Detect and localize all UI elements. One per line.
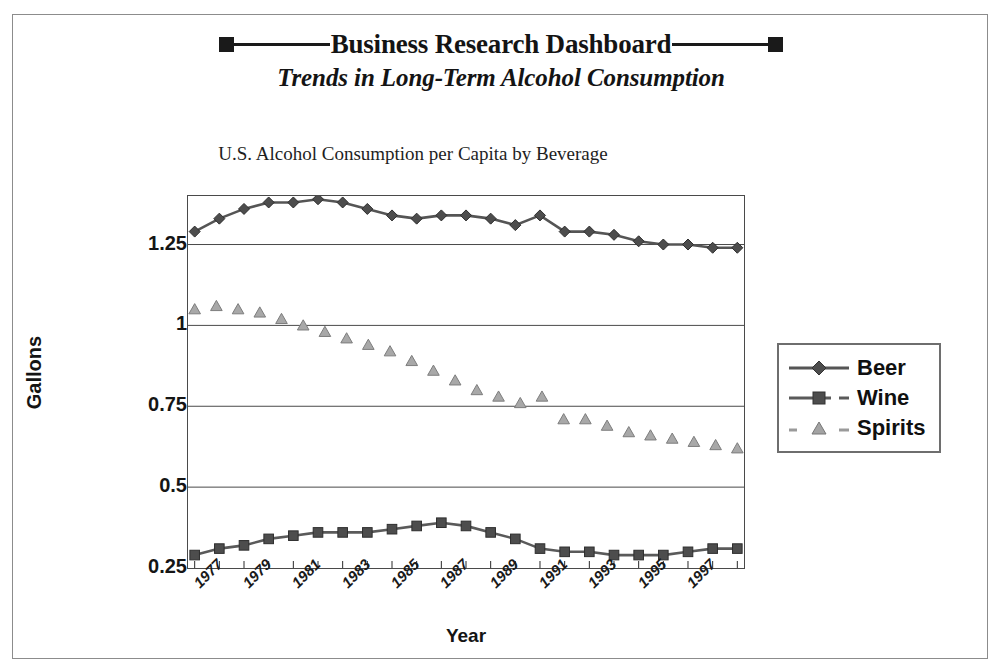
y-tick-label: 0.25 xyxy=(121,556,187,576)
data-point-triangle xyxy=(732,443,744,453)
data-point-triangle xyxy=(428,365,440,375)
data-point-diamond xyxy=(214,213,225,224)
data-point-square xyxy=(560,547,570,557)
dashboard-title: Business Research Dashboard xyxy=(330,31,673,58)
data-point-square xyxy=(733,544,743,554)
data-point-diamond xyxy=(732,242,743,253)
data-point-diamond xyxy=(263,197,274,208)
data-point-square xyxy=(264,534,274,544)
y-axis-labels: 0.250.50.7511.25 xyxy=(109,195,187,569)
data-point-square xyxy=(412,521,422,531)
data-point-triangle xyxy=(580,414,592,424)
data-point-diamond xyxy=(313,196,324,205)
data-point-triangle xyxy=(211,300,223,310)
data-point-square xyxy=(486,528,496,538)
data-point-diamond xyxy=(288,197,299,208)
legend-item-wine[interactable]: Wine xyxy=(787,383,925,413)
y-axis-title: Gallons xyxy=(23,313,46,433)
square-icon xyxy=(787,387,851,409)
data-point-square xyxy=(585,547,595,557)
data-point-diamond xyxy=(387,210,398,221)
data-point-square xyxy=(289,531,299,541)
data-point-diamond xyxy=(411,213,422,224)
data-point-diamond xyxy=(510,220,521,231)
data-point-triangle xyxy=(471,384,483,394)
data-point-triangle xyxy=(666,433,678,443)
data-point-triangle xyxy=(558,414,570,424)
series-wine xyxy=(190,518,742,560)
data-point-diamond xyxy=(707,242,718,253)
masthead-title-line: Business Research Dashboard xyxy=(13,31,989,58)
masthead-rule-left xyxy=(234,43,330,46)
chart-legend: Beer Wine Spirits xyxy=(777,343,941,453)
data-point-triangle xyxy=(297,320,309,330)
data-point-triangle xyxy=(232,304,244,314)
square-marker-right-icon xyxy=(768,37,783,52)
data-point-triangle xyxy=(384,346,396,356)
data-point-square xyxy=(511,534,521,544)
legend-item-spirits[interactable]: Spirits xyxy=(787,413,925,443)
legend-item-beer[interactable]: Beer xyxy=(787,353,925,383)
square-marker-left-icon xyxy=(219,37,234,52)
data-point-square xyxy=(461,521,471,531)
data-point-triangle xyxy=(536,391,548,401)
y-tick-label: 1 xyxy=(121,313,187,333)
data-point-diamond xyxy=(608,229,619,240)
masthead-rule-right xyxy=(672,43,768,46)
data-point-triangle xyxy=(449,375,461,385)
dashboard-subtitle: Trends in Long-Term Alcohol Consumption xyxy=(13,64,989,92)
data-point-diamond xyxy=(658,239,669,250)
chart-container: U.S. Alcohol Consumption per Capita by B… xyxy=(13,125,989,650)
data-point-triangle xyxy=(645,430,657,440)
data-point-triangle xyxy=(254,307,266,317)
data-point-diamond xyxy=(436,210,447,221)
data-point-triangle xyxy=(601,420,613,430)
data-point-square xyxy=(437,518,447,528)
data-point-square xyxy=(190,550,200,560)
data-point-triangle xyxy=(276,313,288,323)
x-axis-labels: 1977197919811983198519871989199119931995… xyxy=(187,571,787,631)
legend-label-beer: Beer xyxy=(857,355,906,381)
series-line xyxy=(195,199,738,248)
data-point-triangle xyxy=(341,333,353,343)
series-spirits xyxy=(189,300,743,453)
data-point-diamond xyxy=(485,213,496,224)
data-point-square xyxy=(239,541,249,551)
data-point-square xyxy=(535,544,545,554)
data-point-diamond xyxy=(189,226,200,237)
data-point-diamond xyxy=(337,197,348,208)
data-point-diamond xyxy=(362,203,373,214)
page-frame: Business Research Dashboard Trends in Lo… xyxy=(12,14,988,659)
plot-svg xyxy=(188,196,744,568)
data-point-square xyxy=(313,528,323,538)
data-point-diamond xyxy=(633,236,644,247)
data-point-square xyxy=(634,550,644,560)
data-point-square xyxy=(338,528,348,538)
data-point-square xyxy=(363,528,373,538)
triangle-icon xyxy=(787,417,851,439)
data-point-square xyxy=(387,524,397,534)
y-tick-label: 0.5 xyxy=(121,475,187,495)
data-point-diamond xyxy=(682,239,693,250)
legend-label-wine: Wine xyxy=(857,385,909,411)
data-point-square xyxy=(708,544,718,554)
chart-title: U.S. Alcohol Consumption per Capita by B… xyxy=(13,143,813,165)
data-point-triangle xyxy=(493,391,505,401)
x-axis-title: Year xyxy=(187,625,745,647)
y-tick-label: 1.25 xyxy=(121,233,187,253)
data-point-triangle xyxy=(363,339,375,349)
data-point-square xyxy=(215,544,225,554)
data-point-diamond xyxy=(239,203,250,214)
plot-area xyxy=(187,195,745,569)
data-point-diamond xyxy=(584,226,595,237)
legend-label-spirits: Spirits xyxy=(857,415,925,441)
data-point-diamond xyxy=(461,210,472,221)
data-point-triangle xyxy=(688,436,700,446)
data-point-triangle xyxy=(406,355,418,365)
masthead: Business Research Dashboard Trends in Lo… xyxy=(13,31,989,92)
data-point-triangle xyxy=(514,397,526,407)
data-point-triangle xyxy=(710,439,722,449)
data-point-square xyxy=(683,547,693,557)
data-point-triangle xyxy=(623,427,635,437)
data-point-triangle xyxy=(189,304,201,314)
